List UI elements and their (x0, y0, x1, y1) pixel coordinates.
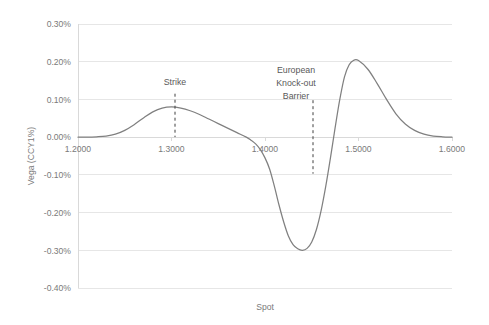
y-tick-label-7: -0.40% (44, 283, 72, 293)
barrier-label-line-0: European (277, 65, 315, 75)
y-axis-title: Vega (CCY1%) (26, 127, 36, 185)
x-tick-label-2: 1.4000 (252, 144, 279, 154)
gridlines (78, 24, 452, 288)
vega-series-line (78, 60, 452, 251)
x-tick-label-4: 1.6000 (439, 144, 466, 154)
x-axis-title: Spot (256, 302, 274, 312)
x-tick-label-0: 1.2000 (65, 144, 92, 154)
x-axis-tick-labels: 1.2000 1.3000 1.4000 1.5000 1.6000 (65, 144, 466, 154)
y-tick-label-4: -0.10% (44, 170, 72, 180)
y-axis-tick-labels: 0.30% 0.20% 0.10% 0.00% -0.10% -0.20% -0… (44, 19, 72, 293)
y-tick-label-5: -0.20% (44, 208, 72, 218)
annotation-european-knock-out-barrier: European Knock-out Barrier (276, 65, 316, 174)
x-axis-tick-marks (78, 137, 452, 141)
y-tick-label-2: 0.10% (47, 95, 72, 105)
chart-canvas: 0.30% 0.20% 0.10% 0.00% -0.10% -0.20% -0… (0, 0, 489, 325)
y-tick-label-3: 0.00% (47, 132, 72, 142)
y-tick-label-6: -0.30% (44, 246, 72, 256)
strike-label-line-0: Strike (164, 77, 187, 87)
x-tick-label-1: 1.3000 (158, 144, 185, 154)
y-tick-label-0: 0.30% (47, 19, 72, 29)
y-tick-label-1: 0.20% (47, 57, 72, 67)
barrier-label-line-2: Barrier (283, 91, 309, 101)
x-tick-label-3: 1.5000 (345, 144, 372, 154)
barrier-label-line-1: Knock-out (276, 78, 316, 88)
vega-spot-chart: 0.30% 0.20% 0.10% 0.00% -0.10% -0.20% -0… (0, 0, 489, 325)
